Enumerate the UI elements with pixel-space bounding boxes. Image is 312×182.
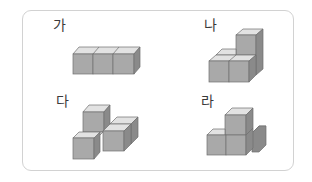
- figure-ra: [0, 0, 312, 182]
